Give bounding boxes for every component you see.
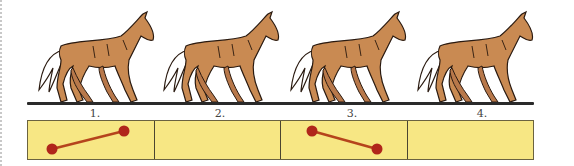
frame-label-1: 1. [85,107,105,120]
footfall-cell-3 [281,121,408,159]
footfall-diagram [27,120,534,160]
footfall-cell-4 [408,121,534,159]
frame-label-4: 4. [472,107,492,120]
horse-figure-1 [33,10,158,106]
horse-figure-4 [412,10,537,106]
page-edge-dotted-border [0,0,5,166]
frame-label-2: 2. [210,107,230,120]
ground-line [27,102,534,105]
footfall-dots-1 [28,121,154,159]
horse-figure-3 [285,10,410,106]
footfall-dots-3 [281,121,407,159]
frame-label-3: 3. [342,107,362,120]
horse-figure-2 [158,10,283,106]
footfall-cell-2 [155,121,282,159]
footfall-cell-1 [28,121,155,159]
